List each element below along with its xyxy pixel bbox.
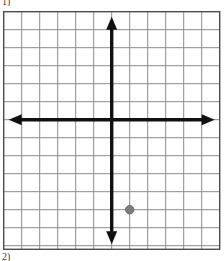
graph-canvas [3, 11, 221, 250]
coordinate-grid-graph [3, 11, 221, 250]
y-axis-arrow-up [106, 17, 117, 30]
plotted-point[interactable] [126, 206, 134, 214]
worksheet-page: 1) 2) [0, 0, 224, 261]
problem-number-label-bottom: 2) [2, 252, 10, 261]
y-axis-arrow-down [106, 231, 117, 244]
x-axis-arrow-right [202, 114, 215, 125]
problem-number-label-top: 1) [2, 0, 10, 6]
x-axis-arrow-left [9, 114, 22, 125]
plotted-points [126, 206, 134, 214]
